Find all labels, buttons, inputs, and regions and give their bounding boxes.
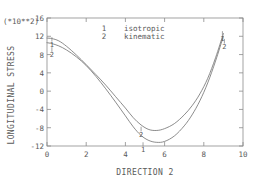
curve-tag-label: 2 xyxy=(139,131,143,139)
x-tick-label: 6 xyxy=(162,150,167,159)
y-tick-label: -4 xyxy=(35,105,45,114)
y-axis-label: LONGITUDINAL STRESS xyxy=(7,45,16,144)
y-axis-exponent-note: (*10**2) xyxy=(3,17,39,26)
curve-tag-label: 2 xyxy=(50,51,54,59)
y-tick-label: -12 xyxy=(30,142,44,151)
y-tick-label: 0 xyxy=(39,87,44,96)
x-axis-label: DIRECTION 2 xyxy=(116,168,173,177)
x-tick-label: 10 xyxy=(238,150,248,159)
line-chart: 0246810 -12-8-40481216 122112 (*10**2) D… xyxy=(0,0,260,181)
y-tick-label: -8 xyxy=(35,124,45,133)
legend-marker: 2 xyxy=(102,32,107,41)
x-tick-label: 0 xyxy=(45,150,50,159)
y-tick-label: 4 xyxy=(39,69,44,78)
curve-tag-label: 2 xyxy=(222,43,226,51)
x-tick-label: 8 xyxy=(202,150,207,159)
curve-tag-label: 1 xyxy=(141,146,145,154)
x-tick-label: 4 xyxy=(123,150,128,159)
y-tick-label: 8 xyxy=(39,51,44,60)
y-tick-label: 12 xyxy=(35,32,44,41)
x-tick-label: 2 xyxy=(84,150,89,159)
legend-label: kinematic xyxy=(124,32,165,41)
chart-figure: 0246810 -12-8-40481216 122112 (*10**2) D… xyxy=(0,0,260,181)
